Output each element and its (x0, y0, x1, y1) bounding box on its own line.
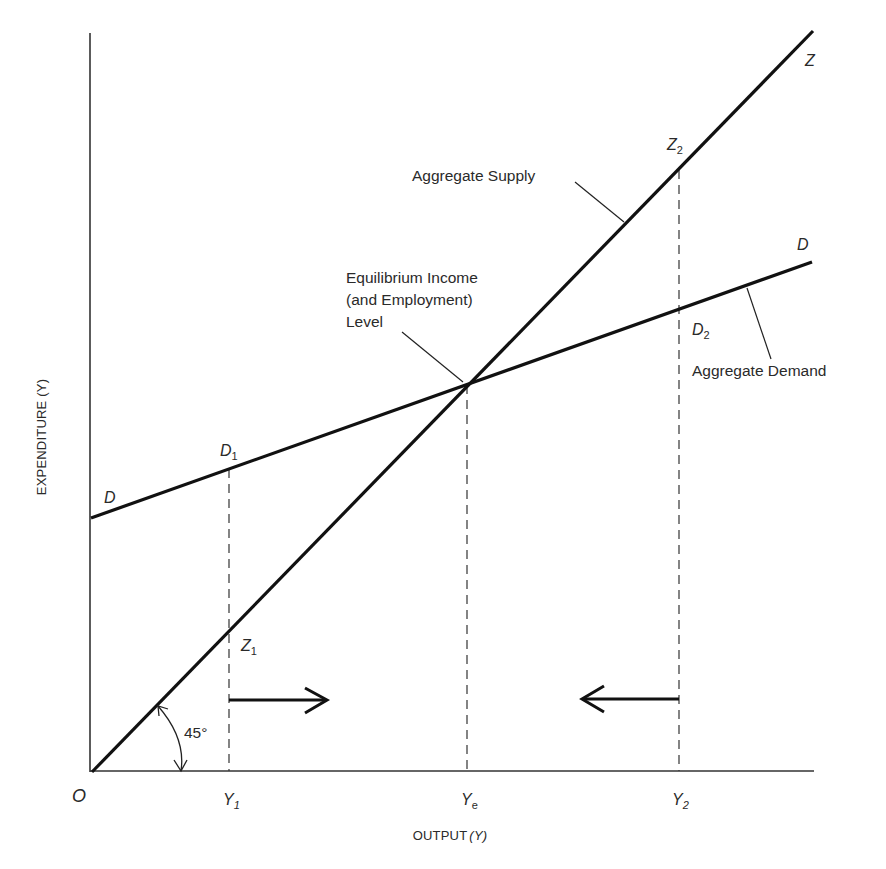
tick-y1: Y1 (223, 791, 240, 811)
x-axis-label: OUTPUT(Y) (413, 828, 488, 843)
equilibrium-label-line3: Level (346, 313, 383, 330)
keynesian-cross-diagram: EXPENDITURE (Y) OUTPUT(Y) O Y1 Ye Y2 Z D… (0, 0, 886, 869)
aggregate-demand-label: Aggregate Demand (692, 362, 826, 379)
aggregate-supply-line (92, 31, 813, 772)
equilibrium-label-line1: Equilibrium Income (346, 269, 478, 286)
point-d2-label: D2 (692, 321, 710, 341)
y-axis-label: EXPENDITURE (Y) (34, 379, 49, 495)
aggregate-supply-label: Aggregate Supply (412, 167, 535, 184)
demand-leader-line (747, 288, 771, 359)
demand-end-label: D (797, 236, 809, 253)
tick-ye: Ye (461, 791, 478, 811)
tick-y2: Y2 (672, 791, 689, 811)
point-z2-label: Z2 (666, 136, 683, 156)
arrow-left-icon (582, 686, 679, 712)
equilibrium-leader-line (402, 332, 463, 382)
point-z1-label: Z1 (240, 637, 257, 657)
angle-arc-icon (158, 706, 187, 771)
demand-start-label: D (104, 489, 116, 506)
equilibrium-label-line2: (and Employment) (346, 291, 473, 308)
supply-end-label: Z (804, 52, 816, 69)
supply-leader-line (575, 182, 624, 222)
origin-label: O (72, 786, 86, 806)
angle-label: 45° (184, 724, 207, 741)
arrow-right-icon (229, 688, 327, 713)
point-d1-label: D1 (220, 442, 238, 462)
